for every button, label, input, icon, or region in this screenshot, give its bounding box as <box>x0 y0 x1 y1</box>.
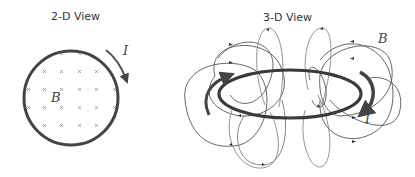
current-label-2d: I <box>123 43 128 58</box>
field-label-2d: B <box>51 90 61 105</box>
field-direction-markers <box>229 27 356 166</box>
current-loop-2d <box>24 51 118 145</box>
diagram-canvas <box>0 0 415 177</box>
field-label-3d: B <box>378 31 388 46</box>
field-lines-3d <box>185 28 401 168</box>
current-label-3d: I <box>365 111 370 126</box>
current-loop-3d <box>219 70 361 118</box>
